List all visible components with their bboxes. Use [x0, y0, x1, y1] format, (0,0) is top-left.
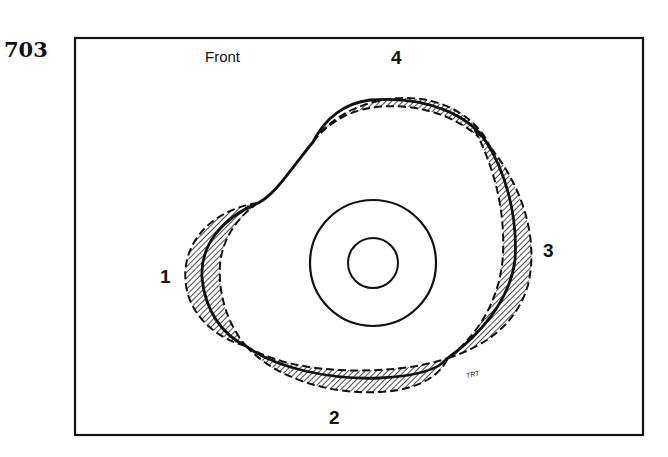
hatched-band-1: [185, 203, 258, 346]
front-label: Front: [205, 48, 241, 65]
position-label-2: 2: [329, 407, 340, 428]
outer-circle: [310, 200, 436, 326]
position-label-4: 4: [391, 47, 402, 68]
position-label-3: 3: [543, 240, 554, 261]
main-outline: [202, 99, 516, 378]
position-label-1: 1: [160, 266, 171, 287]
diagram-canvas: Front 4 3 2 1 TRT: [0, 0, 668, 457]
artist-signature: TRT: [465, 369, 480, 379]
inner-circle: [348, 238, 398, 288]
dashed-outline-4-inner: [313, 106, 492, 152]
